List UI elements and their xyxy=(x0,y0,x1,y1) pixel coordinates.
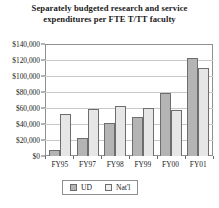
bar-ud-fy99[interactable] xyxy=(132,117,143,156)
x-tick-mark xyxy=(101,156,102,159)
legend-item-natl[interactable]: Nat'l xyxy=(105,183,130,192)
y-axis: $0$20,000$40,000$60,000$80,000$100,000$1… xyxy=(0,44,45,156)
y-tick-label: $140,000 xyxy=(12,40,40,49)
bar-group xyxy=(101,44,129,156)
x-tick-mark xyxy=(157,156,158,159)
bar-group xyxy=(74,44,102,156)
chart-title-line-1: Separately budgeted research and service xyxy=(0,3,219,14)
x-tick-label: FY00 xyxy=(157,160,185,169)
legend-swatch-icon xyxy=(70,184,77,191)
bar-ud-fy97[interactable] xyxy=(77,138,88,156)
chart-legend: UDNat'l xyxy=(62,180,138,195)
legend-label: UD xyxy=(81,183,92,192)
chart-page: Separately budgeted research and service… xyxy=(0,0,219,208)
bar-natl-fy01[interactable] xyxy=(198,68,209,156)
x-tick-label: FY95 xyxy=(46,160,74,169)
x-tick-mark xyxy=(129,156,130,159)
x-tick-label: FY97 xyxy=(74,160,102,169)
bar-natl-fy97[interactable] xyxy=(88,109,99,156)
bar-natl-fy99[interactable] xyxy=(143,108,154,156)
x-axis: FY95FY97FY98FY99FY00FY01 xyxy=(45,156,213,172)
bar-ud-fy98[interactable] xyxy=(104,123,115,156)
legend-swatch-icon xyxy=(105,184,112,191)
bar-natl-fy00[interactable] xyxy=(171,110,182,156)
y-tick-label: $100,000 xyxy=(12,72,40,81)
x-tick-labels: FY95FY97FY98FY99FY00FY01 xyxy=(45,160,213,169)
legend-label: Nat'l xyxy=(116,183,130,192)
plot-area xyxy=(45,44,213,156)
bar-natl-fy98[interactable] xyxy=(115,106,126,156)
y-tick-label: $0 xyxy=(33,152,40,161)
x-tick-mark xyxy=(185,156,186,159)
bar-ud-fy00[interactable] xyxy=(160,93,171,156)
x-tick-label: FY99 xyxy=(129,160,157,169)
y-tick-label: $80,000 xyxy=(16,88,40,97)
bar-group xyxy=(157,44,185,156)
x-tick-mark xyxy=(73,156,74,159)
bar-group xyxy=(184,44,212,156)
y-tick-label: $20,000 xyxy=(16,136,40,145)
y-tick-label: $60,000 xyxy=(16,104,40,113)
x-tick-mark xyxy=(45,156,46,159)
bar-groups xyxy=(45,44,213,156)
chart-title-line-2: expenditures per FTE T/TT faculty xyxy=(0,14,219,25)
y-tick-label: $40,000 xyxy=(16,120,40,129)
bar-ud-fy01[interactable] xyxy=(187,58,198,156)
y-tick-label: $120,000 xyxy=(12,56,40,65)
x-tick-mark xyxy=(213,156,214,159)
bar-group xyxy=(129,44,157,156)
x-tick-label: FY01 xyxy=(184,160,212,169)
bar-natl-fy95[interactable] xyxy=(60,114,71,156)
bar-group xyxy=(46,44,74,156)
x-tick-label: FY98 xyxy=(101,160,129,169)
chart-title: Separately budgeted research and service… xyxy=(0,3,219,25)
legend-item-ud[interactable]: UD xyxy=(70,183,92,192)
